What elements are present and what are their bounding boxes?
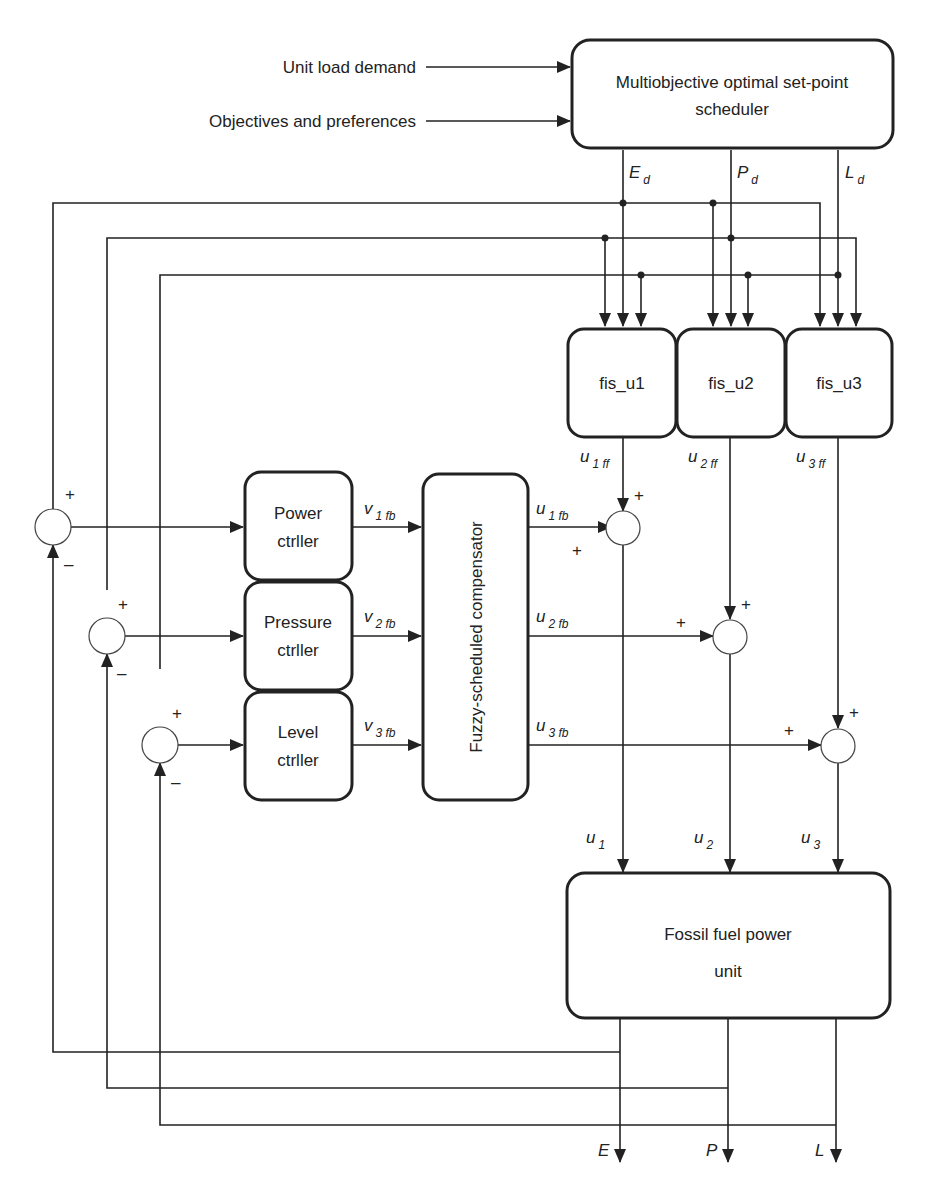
svg-text:+: + bbox=[784, 721, 794, 740]
signal-u1fb: u1 fb bbox=[536, 499, 569, 523]
output-e-label: E bbox=[598, 1141, 610, 1160]
compensator-label: Fuzzy-scheduled compensator bbox=[467, 521, 486, 753]
signal-u3fb: u3 fb bbox=[536, 716, 569, 740]
svg-text:–: – bbox=[117, 664, 127, 683]
summer-u2 bbox=[713, 620, 747, 654]
svg-text:ctrller: ctrller bbox=[277, 532, 319, 551]
signal-v1fb: v1 fb bbox=[364, 499, 396, 523]
svg-text:scheduler: scheduler bbox=[695, 100, 769, 119]
fis-u1-label: fis_u1 bbox=[599, 374, 644, 393]
signal-u3: u3 bbox=[801, 828, 820, 852]
scheduler-label: Multiobjective optimal set-point bbox=[616, 73, 849, 92]
power-controller-block bbox=[245, 472, 352, 580]
svg-text:+: + bbox=[118, 595, 128, 614]
output-p-label: P bbox=[706, 1141, 718, 1160]
signal-u1: u1 bbox=[586, 828, 605, 852]
level-controller-label: Level bbox=[278, 723, 319, 742]
summer-level bbox=[142, 727, 178, 763]
svg-text:+: + bbox=[741, 595, 751, 614]
signal-u2ff: u2 ff bbox=[688, 447, 719, 471]
pressure-controller-block bbox=[245, 582, 352, 690]
svg-text:+: + bbox=[634, 486, 644, 505]
svg-text:ctrller: ctrller bbox=[277, 641, 319, 660]
pressure-controller-label: Pressure bbox=[264, 613, 332, 632]
summer-pressure bbox=[89, 618, 125, 654]
level-controller-block bbox=[245, 692, 352, 800]
scheduler-block bbox=[572, 40, 893, 148]
summer-power bbox=[35, 509, 71, 545]
svg-text:+: + bbox=[849, 703, 859, 722]
signal-pd: Pd bbox=[737, 163, 758, 187]
svg-text:unit: unit bbox=[714, 962, 742, 981]
junction-dots bbox=[602, 200, 842, 279]
signal-u1ff: u1 ff bbox=[580, 447, 611, 471]
svg-text:+: + bbox=[676, 613, 686, 632]
summer-u3 bbox=[821, 729, 855, 763]
svg-text:+: + bbox=[572, 541, 582, 560]
output-l-label: L bbox=[815, 1141, 824, 1160]
fis-u3-label: fis_u3 bbox=[816, 374, 861, 393]
power-controller-label: Power bbox=[274, 504, 323, 523]
summer-u1 bbox=[606, 511, 640, 545]
feedback-p bbox=[107, 654, 728, 1088]
signal-ld: Ld bbox=[845, 163, 864, 187]
svg-text:–: – bbox=[64, 555, 74, 574]
signal-u2fb: u2 fb bbox=[536, 607, 569, 631]
signal-u2: u2 bbox=[694, 828, 713, 852]
fis-u2-label: fis_u2 bbox=[708, 374, 753, 393]
input-label-objectives: Objectives and preferences bbox=[209, 112, 416, 131]
svg-text:+: + bbox=[65, 485, 75, 504]
signal-v2fb: v2 fb bbox=[364, 607, 396, 631]
signal-ed: Ed bbox=[629, 163, 650, 187]
signal-v3fb: v3 fb bbox=[364, 716, 396, 740]
signal-u3ff: u3 ff bbox=[796, 447, 827, 471]
svg-text:ctrller: ctrller bbox=[277, 751, 319, 770]
plant-label: Fossil fuel power bbox=[664, 925, 792, 944]
svg-text:–: – bbox=[171, 773, 181, 792]
input-label-load: Unit load demand bbox=[283, 58, 416, 77]
plant-block bbox=[567, 873, 890, 1018]
svg-text:+: + bbox=[172, 704, 182, 723]
